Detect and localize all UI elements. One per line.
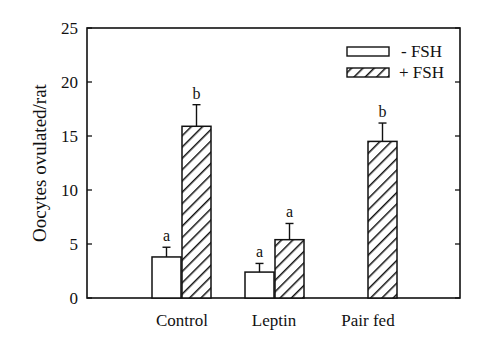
legend: - FSH+ FSH <box>347 42 444 82</box>
bar <box>182 126 211 298</box>
legend-label-minus: - FSH <box>401 42 442 61</box>
significance-label: b <box>379 103 387 120</box>
bar <box>245 272 274 298</box>
legend-label-plus: + FSH <box>399 63 444 82</box>
y-tick-label: 0 <box>70 289 79 308</box>
significance-label: a <box>163 227 170 244</box>
x-tick-label: Leptin <box>252 311 297 330</box>
bar <box>275 240 304 298</box>
x-tick-label: Control <box>156 311 208 330</box>
significance-label: a <box>256 243 263 260</box>
x-tick-label: Pair fed <box>341 311 395 330</box>
y-tick-label: 5 <box>70 235 79 254</box>
y-tick-label: 20 <box>61 73 78 92</box>
bar <box>152 257 181 298</box>
bar <box>368 141 397 298</box>
significance-label: a <box>286 203 293 220</box>
bar-chart: 0510152025Oocytes ovulated/ratControlLep… <box>0 0 487 339</box>
y-axis-label: Oocytes ovulated/rat <box>29 83 50 241</box>
significance-label: b <box>193 85 201 102</box>
legend-swatch-minus <box>347 47 389 56</box>
legend-swatch-plus <box>347 68 389 77</box>
y-tick-label: 25 <box>61 19 78 38</box>
bars: abaab <box>152 85 397 298</box>
y-tick-label: 15 <box>61 127 78 146</box>
y-tick-label: 10 <box>61 181 78 200</box>
